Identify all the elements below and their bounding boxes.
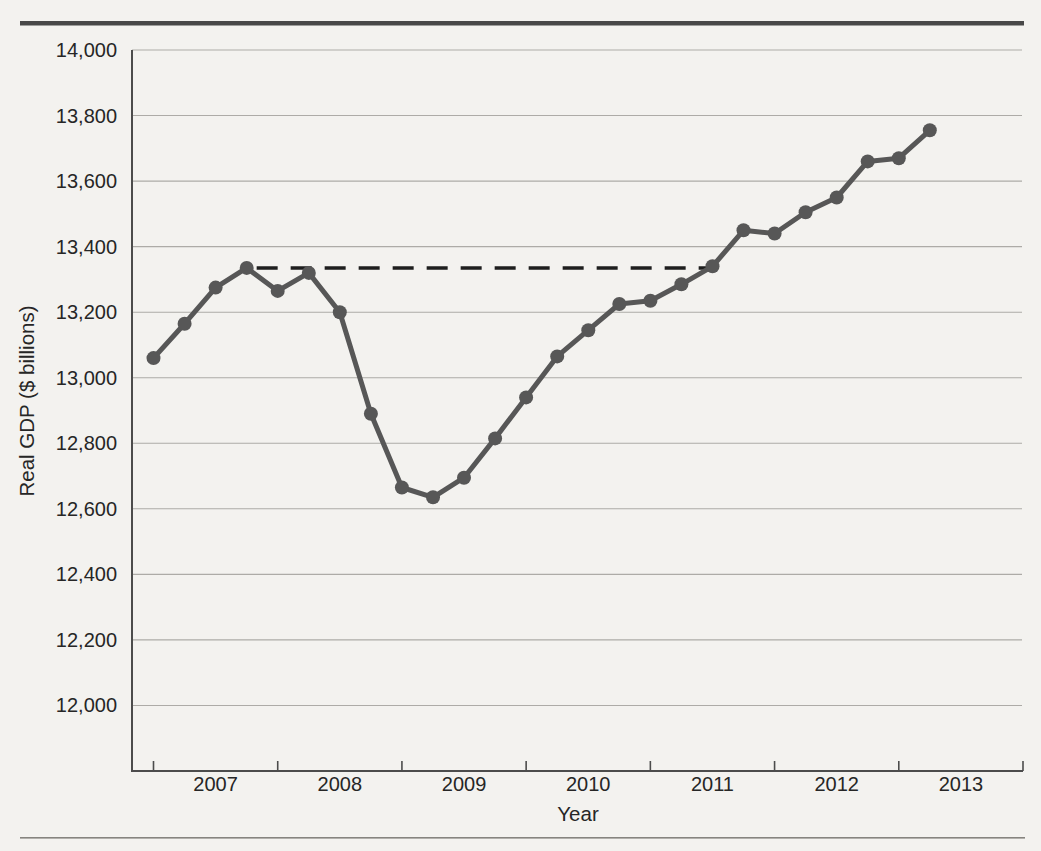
data-point-marker (519, 390, 533, 404)
x-axis-title: Year (557, 802, 599, 825)
y-axis-title: Real GDP ($ billions) (15, 305, 38, 496)
y-tick-label: 12,800 (56, 432, 117, 454)
data-point-marker (768, 227, 782, 241)
x-axis-ticks (154, 761, 1024, 771)
y-tick-label: 12,000 (56, 694, 117, 716)
data-point-marker (643, 294, 657, 308)
x-tick-label: 2011 (691, 773, 734, 795)
data-point-marker (612, 297, 626, 311)
x-tick-label: 2012 (814, 773, 859, 795)
y-tick-label: 13,000 (56, 367, 117, 389)
y-tick-label: 14,000 (56, 39, 117, 61)
data-point-marker (271, 284, 285, 298)
y-tick-label: 13,600 (56, 170, 117, 192)
y-tick-label: 13,200 (56, 301, 117, 323)
real-gdp-line-chart: 14,00013,80013,60013,40013,20013,00012,8… (0, 0, 1041, 851)
x-axis-tick-labels: 2007200820092010201120122013 (193, 773, 983, 795)
data-point-marker (147, 351, 161, 365)
data-point-marker (861, 154, 875, 168)
x-tick-label: 2007 (193, 773, 238, 795)
data-point-marker (333, 305, 347, 319)
data-point-marker (488, 431, 502, 445)
data-point-marker (209, 281, 223, 295)
data-point-marker (395, 481, 409, 495)
data-point-marker (364, 407, 378, 421)
gdp-series-layer (147, 123, 937, 504)
x-tick-label: 2009 (442, 773, 487, 795)
y-tick-label: 12,200 (56, 629, 117, 651)
x-tick-label: 2013 (939, 773, 984, 795)
data-point-marker (581, 323, 595, 337)
y-tick-label: 12,400 (56, 563, 117, 585)
data-point-marker (674, 277, 688, 291)
y-tick-label: 12,600 (56, 498, 117, 520)
data-point-marker (923, 123, 937, 137)
y-tick-label: 13,800 (56, 105, 117, 127)
x-tick-label: 2010 (566, 773, 611, 795)
data-point-marker (426, 490, 440, 504)
y-axis-tick-labels: 14,00013,80013,60013,40013,20013,00012,8… (56, 39, 117, 716)
data-point-marker (550, 349, 564, 363)
data-point-marker (706, 259, 720, 273)
data-point-marker (892, 151, 906, 165)
figure-bottom-rule (20, 837, 1025, 839)
data-point-marker (178, 317, 192, 331)
data-point-marker (457, 471, 471, 485)
y-tick-label: 13,400 (56, 236, 117, 258)
figure-page: 14,00013,80013,60013,40013,20013,00012,8… (0, 0, 1041, 851)
data-point-marker (830, 191, 844, 205)
x-tick-label: 2008 (318, 773, 363, 795)
data-point-marker (240, 261, 254, 275)
data-point-marker (302, 266, 316, 280)
data-point-marker (799, 205, 813, 219)
figure-top-rule (20, 21, 1024, 26)
gdp-line (154, 130, 930, 497)
gridlines (132, 50, 1022, 705)
data-point-marker (737, 223, 751, 237)
